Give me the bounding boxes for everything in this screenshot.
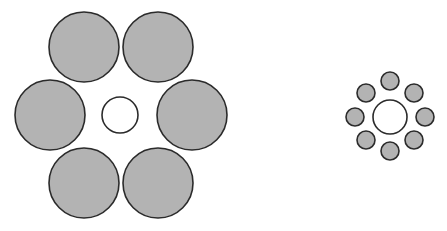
- surround-circle: [346, 108, 364, 126]
- surround-circle: [157, 80, 227, 150]
- surround-circle: [123, 148, 193, 218]
- surround-circle: [416, 108, 434, 126]
- surround-circle: [357, 131, 375, 149]
- surround-circle: [123, 12, 193, 82]
- left-group-large-surround: [15, 12, 227, 218]
- ebbinghaus-illusion-diagram: [0, 0, 447, 231]
- surround-circle: [49, 12, 119, 82]
- surround-circle: [49, 148, 119, 218]
- surround-circle: [405, 84, 423, 102]
- surround-circle: [381, 72, 399, 90]
- surround-circle: [15, 80, 85, 150]
- surround-circle: [381, 142, 399, 160]
- surround-circle: [357, 84, 375, 102]
- center-circle: [373, 100, 407, 134]
- center-circle: [102, 97, 138, 133]
- right-group-small-surround: [346, 72, 434, 160]
- surround-circle: [405, 131, 423, 149]
